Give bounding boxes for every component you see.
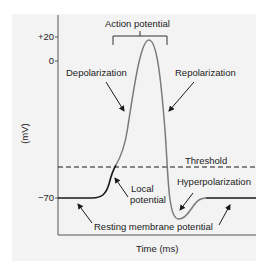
y-tick-minus70: −70 (14, 192, 54, 203)
hyperpolarization-label: Hyperpolarization (177, 176, 251, 187)
repolarization-label: Repolarization (175, 67, 236, 78)
resting-arrow-left (78, 204, 92, 223)
y-tick-plus20: +20 (14, 31, 54, 42)
hyperpolarization-arrow (180, 193, 193, 210)
depolarization-label: Depolarization (66, 67, 127, 78)
local-potential-label-1: Local (131, 183, 154, 194)
action-potential-bracket (113, 31, 167, 45)
local-potential-arrow (115, 178, 128, 197)
resting-curve-left (58, 165, 116, 198)
resting-arrow-right (219, 205, 230, 225)
depolarization-arrow (106, 82, 124, 111)
y-tick-0: 0 (14, 55, 54, 66)
threshold-label: Threshold (185, 155, 227, 166)
local-potential-label-2: potential (130, 194, 166, 205)
y-axis-label: (mV) (19, 123, 30, 144)
resting-membrane-potential-label: Resting membrane potential (94, 221, 213, 232)
action-potential-label: Action potential (105, 18, 170, 29)
repolarization-arrow (169, 82, 194, 111)
x-axis-label: Time (ms) (136, 243, 178, 254)
